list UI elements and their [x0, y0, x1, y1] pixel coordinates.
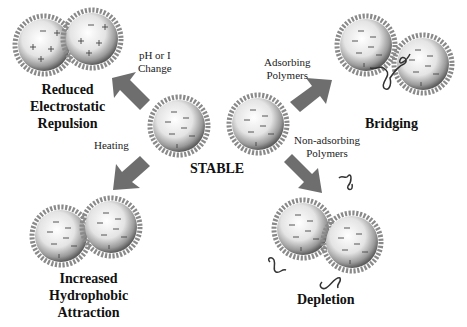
electrostatic-line3: Repulsion	[30, 115, 105, 132]
bridging-text: Bridging	[365, 116, 418, 131]
nonadsorbing-line2: Polymers	[294, 147, 360, 160]
droplet-pair-electrostatic	[15, 10, 121, 74]
droplet-pair-hydrophobic	[32, 198, 140, 265]
condition-heating-label: Heating	[94, 139, 129, 152]
droplet-pair-stable	[150, 95, 287, 155]
outcome-hydrophobic-label: Increased Hydrophobic Attraction	[49, 270, 128, 321]
condition-nonadsorbing-label: Non-adsorbing Polymers	[294, 134, 360, 160]
heating-text: Heating	[94, 139, 129, 151]
outcome-electrostatic-label: Reduced Electrostatic Repulsion	[30, 81, 105, 132]
electrostatic-line1: Reduced	[30, 81, 105, 98]
depletion-text: Depletion	[297, 292, 355, 307]
droplet-pair-depletion	[274, 200, 381, 271]
hydrophobic-line3: Attraction	[49, 304, 128, 321]
stable-text: STABLE	[190, 161, 244, 176]
ph-line2: Change	[138, 62, 172, 75]
droplet-pair-bridging	[337, 16, 452, 93]
arrow-up-left	[112, 72, 150, 110]
stable-label: STABLE	[190, 160, 244, 177]
arrow-up-right	[290, 78, 332, 112]
ph-line1: pH or I	[138, 49, 172, 62]
hydrophobic-line1: Increased	[49, 270, 128, 287]
nonadsorbing-line1: Non-adsorbing	[294, 134, 360, 147]
arrow-down-left	[113, 156, 150, 190]
electrostatic-line2: Electrostatic	[30, 98, 105, 115]
condition-adsorbing-label: Adsorbing Polymers	[264, 56, 310, 82]
outcome-depletion-label: Depletion	[297, 291, 355, 308]
adsorbing-line1: Adsorbing	[264, 56, 310, 69]
outcome-bridging-label: Bridging	[365, 115, 418, 132]
condition-ph-label: pH or I Change	[138, 49, 172, 75]
hydrophobic-line2: Hydrophobic	[49, 287, 128, 304]
adsorbing-line2: Polymers	[264, 69, 310, 82]
